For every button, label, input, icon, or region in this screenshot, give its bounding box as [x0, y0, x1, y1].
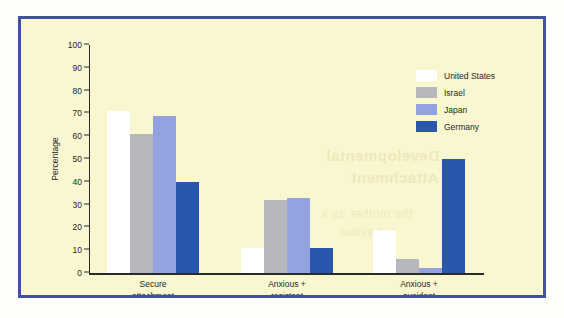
legend-swatch-icon [416, 104, 437, 115]
legend-label: United States [444, 71, 495, 81]
bar-israel-2 [264, 200, 287, 273]
y-axis-tick-mark [84, 180, 89, 181]
x-axis-category-line: Anxious + [344, 279, 494, 291]
y-axis-tick-label: 70 [73, 108, 89, 118]
y-axis-tick-mark [84, 89, 89, 90]
x-axis-line [89, 273, 484, 275]
legend-swatch-icon [416, 70, 437, 81]
y-axis-tick-mark [84, 226, 89, 227]
bar-germany-3 [442, 159, 465, 273]
bar-germany-2 [310, 248, 333, 273]
bar-germany-1 [176, 182, 199, 273]
y-axis-tick-mark [84, 203, 89, 204]
chart-legend: United StatesIsraelJapanGermany [416, 67, 495, 135]
bar-group-bars [107, 45, 199, 273]
bar-us-2 [241, 248, 264, 273]
bar-group [241, 45, 361, 273]
x-axis-category-label: Anxious +resistant [212, 279, 362, 298]
x-axis-category-line: avoidant [344, 291, 494, 299]
legend-label: Japan [444, 105, 467, 115]
y-axis-tick-label: 50 [73, 154, 89, 164]
bar-japan-1 [153, 116, 176, 273]
x-axis-category-line: Secure [78, 279, 228, 291]
bar-israel-3 [396, 259, 419, 273]
y-axis-tick-mark [84, 135, 89, 136]
bar-us-3 [373, 230, 396, 273]
legend-swatch-icon [416, 87, 437, 98]
x-axis-category-line: attachment [78, 291, 228, 299]
bar-japan-2 [287, 198, 310, 273]
y-axis-title: Percentage [50, 137, 60, 180]
y-axis-tick-mark [84, 66, 89, 67]
y-axis-tick-label: 40 [73, 177, 89, 187]
legend-item-japan: Japan [416, 101, 495, 118]
y-axis-tick-label: 30 [73, 200, 89, 210]
y-axis-tick-label: 10 [73, 245, 89, 255]
x-axis-category-label: Secureattachment [78, 279, 228, 298]
legend-swatch-icon [416, 121, 437, 132]
legend-item-us: United States [416, 67, 495, 84]
bar-us-1 [107, 111, 130, 273]
y-axis-tick-label: 20 [73, 222, 89, 232]
legend-label: Germany [444, 122, 479, 132]
y-axis-tick-mark [84, 44, 89, 45]
figure-frame: Developmental in Attachment the mother a… [18, 16, 546, 298]
y-axis-tick-label: 0 [77, 268, 89, 278]
legend-label: Israel [444, 88, 465, 98]
y-axis-tick-mark [84, 249, 89, 250]
x-axis-category-line: Anxious + [212, 279, 362, 291]
x-axis-category-line: resistant [212, 291, 362, 299]
x-axis-category-label: Anxious +avoidant [344, 279, 494, 298]
bar-group-bars [241, 45, 333, 273]
bar-group [107, 45, 227, 273]
y-axis-tick-mark [84, 112, 89, 113]
legend-item-germany: Germany [416, 118, 495, 135]
y-axis-tick-label: 100 [68, 40, 89, 50]
legend-item-israel: Israel [416, 84, 495, 101]
bar-israel-1 [130, 134, 153, 273]
y-axis-tick-label: 60 [73, 131, 89, 141]
y-axis-tick-mark [84, 272, 89, 273]
y-axis-tick-label: 80 [73, 86, 89, 96]
y-axis-tick-mark [84, 158, 89, 159]
bar-japan-3 [419, 268, 442, 273]
y-axis-tick-label: 90 [73, 63, 89, 73]
